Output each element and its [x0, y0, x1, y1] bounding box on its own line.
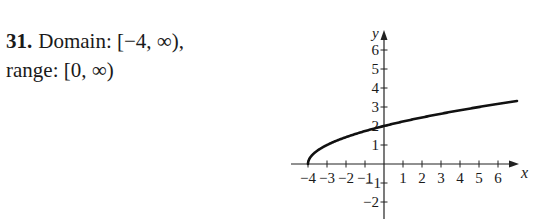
y-tick-label: 4 [372, 80, 380, 96]
x-tick-label: 4 [456, 170, 464, 186]
y-tick-label: 6 [372, 42, 380, 58]
y-axis-arrow-icon [381, 30, 388, 40]
x-tick-label: −2 [338, 170, 354, 186]
y-tick-label: 1 [372, 137, 380, 153]
x-tick-label: −3 [319, 170, 335, 186]
y-tick-label: 3 [372, 99, 380, 115]
axes [291, 30, 519, 219]
tick-labels: −4−3−2−1123456−2−1123456xy [300, 25, 528, 210]
y-axis-label: y [370, 25, 379, 41]
x-tick-label: −4 [300, 170, 316, 186]
y-tick-label: −1 [365, 175, 381, 191]
x-tick-label: 1 [399, 170, 407, 186]
x-tick-label: 3 [437, 170, 445, 186]
x-tick-label: 5 [475, 170, 483, 186]
sqrt-curve [308, 101, 517, 164]
function-graph: −4−3−2−1123456−2−1123456xy [0, 0, 541, 219]
y-tick-label: 2 [372, 118, 380, 134]
x-axis-arrow-icon [509, 161, 519, 168]
y-tick-label: −2 [363, 194, 379, 210]
x-axis-label: x [520, 164, 528, 181]
y-tick-label: 5 [372, 61, 380, 77]
x-tick-label: 6 [494, 170, 502, 186]
x-tick-label: 2 [418, 170, 426, 186]
